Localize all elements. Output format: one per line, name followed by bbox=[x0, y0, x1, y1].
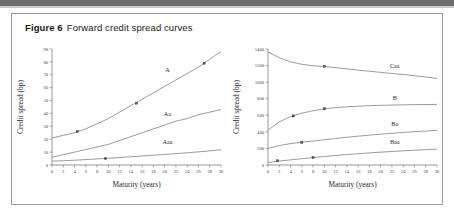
x-tick-label: 30 bbox=[219, 169, 224, 174]
y-tick-label: 70 bbox=[43, 72, 48, 77]
x-tick-label: 14 bbox=[345, 169, 350, 174]
x-tick-label: 24 bbox=[185, 169, 190, 174]
data-point-marker-caa bbox=[323, 65, 325, 67]
series-curve-caa bbox=[268, 52, 437, 79]
series-label-b: B bbox=[393, 94, 397, 101]
series-label-caa: Caa bbox=[390, 62, 400, 69]
x-tick-label: 28 bbox=[207, 169, 212, 174]
x-tick-label: 12 bbox=[117, 169, 122, 174]
y-tick-label: 400 bbox=[257, 130, 265, 135]
series-curve-baa bbox=[268, 149, 437, 162]
y-axis-title: Credit spread (bp) bbox=[16, 80, 25, 134]
data-point-marker-b bbox=[323, 108, 325, 110]
data-point-marker-a bbox=[135, 102, 137, 104]
y-tick-label: 1200 bbox=[255, 63, 265, 68]
y-tick-label: 10 bbox=[43, 150, 48, 155]
x-tick-label: 22 bbox=[174, 169, 179, 174]
x-tick-label: 20 bbox=[378, 169, 383, 174]
figure-caption: Figure 6Forward credit spread curves bbox=[25, 22, 193, 33]
x-tick-label: 2 bbox=[278, 169, 281, 174]
figure-container: Figure 6Forward credit spread curves 010… bbox=[11, 13, 443, 205]
chart-panel-investment-grade: 0102030405060708090024681012141618202224… bbox=[12, 41, 228, 204]
page-top-edge-shadow bbox=[0, 6, 454, 8]
y-tick-label: 20 bbox=[43, 137, 48, 142]
series-label-baa: Baa bbox=[390, 138, 400, 145]
y-tick-label: 40 bbox=[43, 111, 48, 116]
chart-right: 0200400600800100012001400024681012141618… bbox=[228, 41, 444, 204]
data-point-marker-a bbox=[76, 130, 78, 132]
series-label-ba: Ba bbox=[391, 120, 398, 127]
x-tick-label: 0 bbox=[267, 169, 270, 174]
y-tick-label: 1000 bbox=[255, 80, 265, 85]
series-curve-a bbox=[52, 52, 221, 138]
series-curve-b bbox=[268, 104, 437, 130]
x-tick-label: 26 bbox=[196, 169, 201, 174]
x-tick-label: 2 bbox=[62, 169, 65, 174]
x-axis-title: Maturity (years) bbox=[328, 180, 377, 189]
x-tick-label: 18 bbox=[151, 169, 156, 174]
x-tick-label: 16 bbox=[356, 169, 361, 174]
x-tick-label: 14 bbox=[129, 169, 134, 174]
x-tick-label: 12 bbox=[333, 169, 338, 174]
chart-panel-speculative-grade: 0200400600800100012001400024681012141618… bbox=[228, 41, 444, 204]
x-tick-label: 8 bbox=[312, 169, 315, 174]
y-tick-label: 30 bbox=[43, 124, 48, 129]
x-tick-label: 28 bbox=[423, 169, 428, 174]
y-tick-label: 0 bbox=[262, 163, 265, 168]
y-tick-label: 50 bbox=[43, 98, 48, 103]
x-tick-label: 26 bbox=[412, 169, 417, 174]
y-tick-label: 90 bbox=[43, 47, 48, 52]
data-point-marker-a bbox=[203, 62, 205, 64]
figure-number: Figure 6 bbox=[25, 22, 63, 33]
x-tick-label: 22 bbox=[390, 169, 395, 174]
x-tick-label: 24 bbox=[401, 169, 406, 174]
y-tick-label: 80 bbox=[43, 60, 48, 65]
x-tick-label: 0 bbox=[51, 169, 54, 174]
data-point-marker-aaa bbox=[104, 157, 106, 159]
x-tick-label: 10 bbox=[106, 169, 111, 174]
y-tick-label: 800 bbox=[257, 96, 265, 101]
data-point-marker-ba bbox=[301, 141, 303, 143]
charts-row: 0102030405060708090024681012141618202224… bbox=[12, 41, 444, 204]
chart-left: 0102030405060708090024681012141618202224… bbox=[12, 41, 228, 204]
y-tick-label: 1400 bbox=[255, 47, 265, 52]
x-tick-label: 16 bbox=[140, 169, 145, 174]
data-point-marker-b bbox=[292, 115, 294, 117]
y-axis-title: Credit spread (bp) bbox=[232, 80, 241, 134]
series-label-a: A bbox=[165, 66, 170, 73]
data-point-marker-baa bbox=[312, 156, 314, 158]
x-tick-label: 8 bbox=[96, 169, 99, 174]
x-tick-label: 6 bbox=[301, 169, 304, 174]
series-label-aa: Aa bbox=[164, 110, 171, 117]
x-axis-title: Maturity (years) bbox=[112, 180, 161, 189]
series-curve-aa bbox=[52, 110, 221, 158]
data-point-marker-baa bbox=[276, 160, 278, 162]
series-curve-ba bbox=[268, 130, 437, 148]
x-tick-label: 4 bbox=[289, 169, 292, 174]
x-tick-label: 20 bbox=[162, 169, 167, 174]
figure-title: Forward credit spread curves bbox=[67, 22, 193, 33]
y-tick-label: 600 bbox=[257, 113, 265, 118]
y-tick-label: 60 bbox=[43, 85, 48, 90]
x-tick-label: 4 bbox=[73, 169, 76, 174]
x-tick-label: 10 bbox=[322, 169, 327, 174]
series-label-aaa: Aaa bbox=[162, 138, 172, 145]
y-tick-label: 0 bbox=[46, 163, 49, 168]
x-tick-label: 30 bbox=[435, 169, 440, 174]
y-tick-label: 200 bbox=[257, 146, 265, 151]
x-tick-label: 6 bbox=[85, 169, 88, 174]
x-tick-label: 18 bbox=[367, 169, 372, 174]
